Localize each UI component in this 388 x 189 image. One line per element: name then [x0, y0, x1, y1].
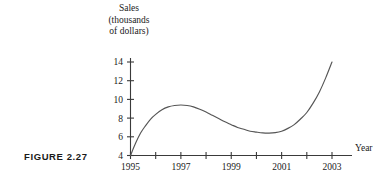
x-axis-group: 19951997199920012003	[121, 152, 352, 172]
y-axis-group: 468101214	[114, 57, 135, 160]
x-axis-tick-labels: 19951997199920012003	[121, 162, 342, 172]
y-axis-tick-label: 12	[114, 76, 124, 86]
y-axis-tick-labels: 468101214	[114, 57, 124, 160]
x-axis-tick-label: 1999	[222, 162, 241, 172]
y-axis-tick-label: 14	[114, 57, 124, 67]
sales-line-chart: 468101214 19951997199920012003	[0, 0, 388, 189]
y-axis-tick-label: 10	[114, 95, 124, 105]
y-axis-tick-label: 8	[118, 114, 123, 124]
x-axis-tick-label: 1995	[121, 162, 140, 172]
x-axis-tick-label: 1997	[171, 162, 190, 172]
figure-container: FIGURE 2.27 Sales (thousands of dollars)…	[0, 0, 388, 189]
x-axis-tick-label: 2001	[272, 162, 291, 172]
x-axis-tick-label: 2003	[323, 162, 342, 172]
y-axis-tick-label: 4	[118, 151, 123, 161]
y-axis-tick-label: 6	[118, 132, 123, 142]
sales-curve	[131, 62, 333, 156]
